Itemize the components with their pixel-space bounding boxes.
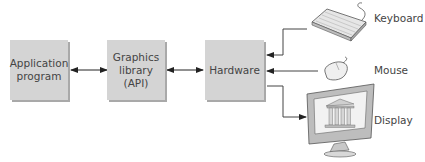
keyboard-label: Keyboard <box>374 12 423 24</box>
keyboard-icon <box>312 3 366 41</box>
monitor-icon <box>307 84 374 157</box>
mouse-icon <box>325 57 348 80</box>
box-label-line: Graphics <box>113 51 159 64</box>
arrow-keyboard-hardware <box>267 29 307 55</box>
box-label-line: Hardware <box>209 64 260 77</box>
graphics-library-box: Graphics library (API) <box>107 40 165 100</box>
display-label: Display <box>374 114 413 126</box>
box-label-line: (API) <box>113 77 159 90</box>
box-label-line: library <box>113 64 159 77</box>
arrow-hardware-display <box>267 86 306 117</box>
box-label-line: program <box>10 70 69 83</box>
hardware-box: Hardware <box>205 40 264 100</box>
mouse-label: Mouse <box>374 64 408 76</box>
application-program-box: Application program <box>10 40 68 100</box>
box-label-line: Application <box>10 57 69 70</box>
